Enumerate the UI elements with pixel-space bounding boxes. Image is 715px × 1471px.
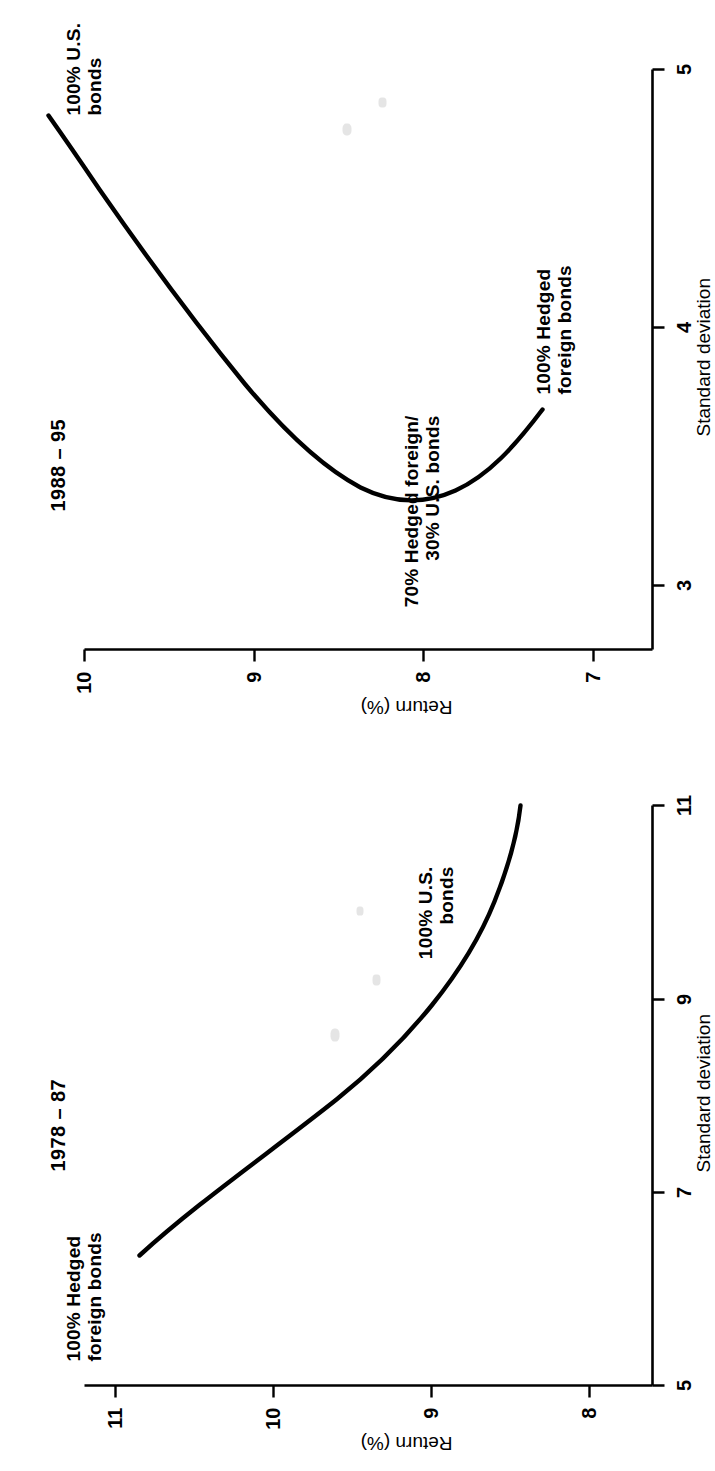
x-tick-label-5: 5 <box>672 55 695 83</box>
plot-area-1978-87 <box>0 736 715 1471</box>
scan-speck <box>356 906 363 915</box>
frontier-curve-1988-95 <box>48 115 542 500</box>
y-tick-label-10: 10 <box>261 1407 284 1443</box>
x-tick-label-11: 11 <box>672 789 695 821</box>
annotation-us-bonds-1988-95: 100% U.S. bonds <box>62 22 105 115</box>
y-axis-title-1978-87: Return (%) <box>360 1431 452 1453</box>
x-tick-label-3: 3 <box>672 571 695 599</box>
scan-speck <box>372 974 380 985</box>
y-tick-label-8: 8 <box>577 1407 600 1435</box>
y-tick-label-10: 10 <box>72 671 95 707</box>
annotation-us-bonds-1978-87: 100% U.S. bonds <box>414 866 457 1018</box>
scan-speck <box>378 97 386 107</box>
panel-1988-95: 1988 – 95 3 4 5 7 <box>0 0 715 735</box>
x-tick-label-9: 9 <box>672 985 695 1013</box>
x-axis-title-1978-87: Standard deviation <box>692 1014 714 1172</box>
figure-stage: 1978 – 87 5 <box>0 0 715 1471</box>
y-tick-label-7: 7 <box>581 671 604 699</box>
panel-1978-87: 1978 – 87 5 <box>0 736 715 1471</box>
y-axis-title-1988-95: Return (%) <box>360 695 452 717</box>
annotation-mix-70-30-1988-95: 70% Hedged foreign/ 30% U.S. bonds <box>400 415 443 623</box>
x-axis-title-1988-95: Standard deviation <box>692 278 714 436</box>
figure-page: 1978 – 87 5 <box>0 0 715 1471</box>
frontier-curve-1978-87 <box>139 805 520 1255</box>
annotation-hedged-foreign-1988-95: 100% Hedged foreign bonds <box>532 265 575 394</box>
y-tick-label-9: 9 <box>242 671 265 699</box>
x-tick-label-7: 7 <box>672 1178 695 1206</box>
scan-speck <box>330 1028 339 1041</box>
x-tick-label-5: 5 <box>672 1371 695 1399</box>
annotation-hedged-foreign-1978-87: 100% Hedged foreign bonds <box>62 1232 105 1361</box>
plot-area-1988-95 <box>0 0 715 735</box>
y-tick-label-11: 11 <box>103 1407 126 1443</box>
scan-speck <box>342 123 351 135</box>
